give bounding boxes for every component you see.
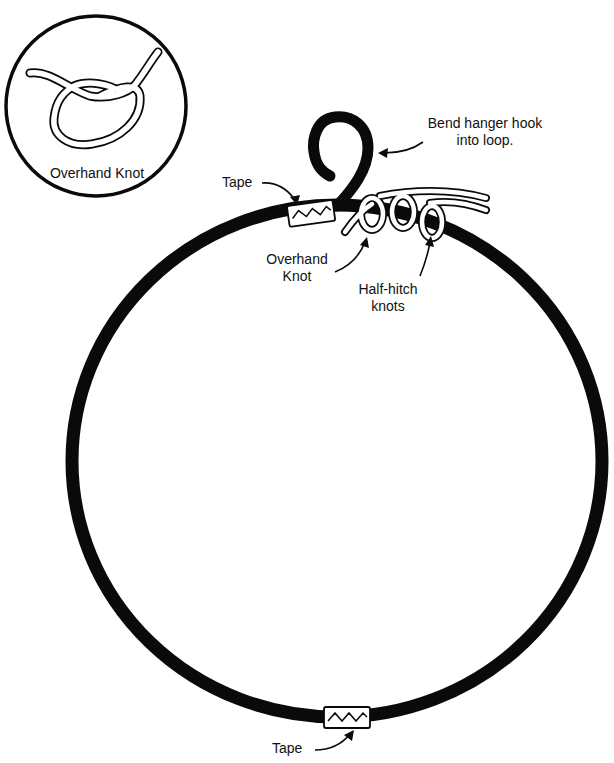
half-hitch-line1: Half-hitch bbox=[348, 281, 428, 298]
arrowheads bbox=[290, 148, 434, 741]
overhand-line2: Knot bbox=[262, 268, 332, 285]
tape-bottom bbox=[324, 707, 370, 728]
overhand-knot-label: Overhand Knot bbox=[262, 251, 332, 285]
half-hitch-label: Half-hitch knots bbox=[348, 281, 428, 315]
tape-bottom-label: Tape bbox=[272, 740, 302, 757]
bend-hook-line2: into loop. bbox=[400, 132, 570, 149]
hoop-ring bbox=[72, 205, 602, 717]
bend-hook-label: Bend hanger hook into loop. bbox=[400, 115, 570, 149]
tape-top-label: Tape bbox=[222, 174, 252, 191]
hanger-hook bbox=[314, 117, 368, 206]
inset-label: Overhand Knot bbox=[42, 165, 152, 182]
overhand-line1: Overhand bbox=[262, 251, 332, 268]
half-hitch-line2: knots bbox=[348, 298, 428, 315]
bend-hook-line1: Bend hanger hook bbox=[400, 115, 570, 132]
